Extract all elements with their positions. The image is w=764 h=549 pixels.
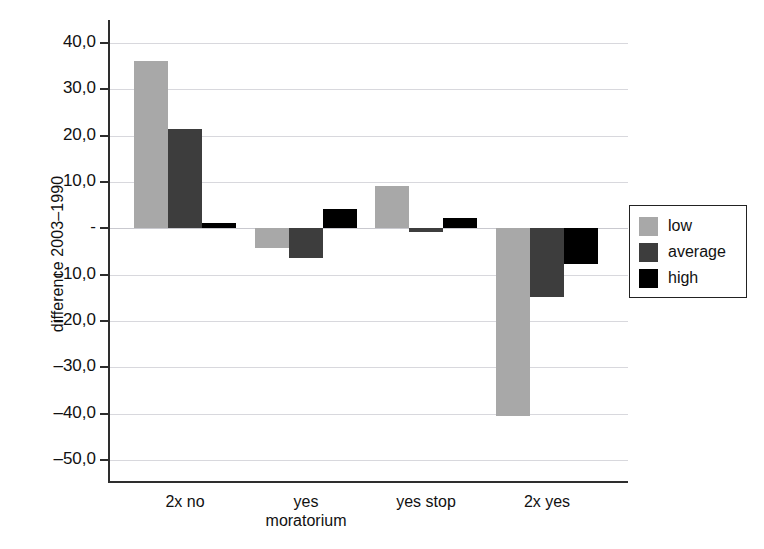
bar-low (375, 186, 409, 229)
category-label-line2: moratorium (221, 511, 391, 530)
gridline (110, 367, 628, 368)
legend-label-low: low (668, 217, 692, 235)
y-axis-tick-label: –50,0 (6, 449, 96, 469)
y-axis-tick (100, 88, 109, 90)
x-axis-line (108, 481, 628, 483)
y-axis-tick (100, 366, 109, 368)
legend-item-high[interactable]: high (639, 266, 698, 290)
plot-area: 2x noyesmoratoriumyes stop2x yes (108, 20, 628, 483)
bar-high (323, 209, 357, 228)
y-axis-tick-label: –40,0 (6, 403, 96, 423)
legend-label-average: average (668, 243, 726, 261)
gridline (110, 414, 628, 415)
gridline (110, 89, 628, 90)
bar-high (564, 228, 598, 264)
category-label-line1: 2x yes (462, 492, 632, 511)
y-axis-tick-label: –30,0 (6, 356, 96, 376)
bar-average (409, 228, 443, 231)
y-axis-tick-label: 30,0 (6, 78, 96, 98)
bar-low (255, 228, 289, 248)
legend-swatch-average (639, 243, 658, 262)
y-axis-tick (100, 459, 109, 461)
x-axis-category-label: 2x yes (462, 492, 632, 511)
bar-chart-figure: difference 2003–1990 2x noyesmoratoriumy… (0, 0, 764, 549)
legend-swatch-high (639, 269, 658, 288)
y-axis-tick-label: 20,0 (6, 125, 96, 145)
chart-legend: lowaveragehigh (629, 205, 747, 298)
gridline (110, 43, 628, 44)
y-axis-tick (100, 274, 109, 276)
legend-swatch-low (639, 217, 658, 236)
y-axis-tick (100, 135, 109, 137)
bar-average (530, 228, 564, 297)
bar-high (443, 218, 477, 228)
legend-label-high: high (668, 269, 698, 287)
bar-average (289, 228, 323, 258)
y-axis-tick-label: - (6, 217, 96, 237)
y-axis-tick (100, 320, 109, 322)
bar-high (202, 223, 236, 228)
bar-average (168, 129, 202, 228)
y-axis-tick (100, 227, 109, 229)
y-axis-tick (100, 42, 109, 44)
gridline (110, 321, 628, 322)
bar-low (134, 61, 168, 228)
y-axis-tick-label: –20,0 (6, 310, 96, 330)
y-axis-tick-label: –10,0 (6, 264, 96, 284)
gridline (110, 460, 628, 461)
y-axis-tick (100, 181, 109, 183)
y-axis-tick-label: 40,0 (6, 32, 96, 52)
bar-low (496, 228, 530, 416)
legend-item-average[interactable]: average (639, 240, 726, 264)
y-axis-tick (100, 413, 109, 415)
legend-item-low[interactable]: low (639, 214, 692, 238)
y-axis-tick-label: 10,0 (6, 171, 96, 191)
